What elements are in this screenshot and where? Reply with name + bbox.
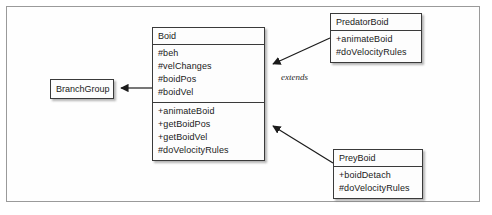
class-attribute: #beh xyxy=(158,47,259,60)
class-box-boid[interactable]: Boid #beh #velChanges #boidPos #boidVel … xyxy=(152,27,265,161)
class-box-preyboid[interactable]: PreyBoid +boidDetach #doVelocityRules xyxy=(333,149,423,199)
class-operation: +boidDetach xyxy=(339,169,417,182)
class-name-preyboid: PreyBoid xyxy=(334,150,422,167)
class-attributes-boid: #beh #velChanges #boidPos #boidVel xyxy=(153,45,264,102)
class-operation: +getBoidPos xyxy=(158,118,259,131)
class-attribute: #boidPos xyxy=(158,73,259,86)
class-attribute: #boidVel xyxy=(158,86,259,99)
class-operations-preyboid: +boidDetach #doVelocityRules xyxy=(334,167,422,198)
class-name-boid: Boid xyxy=(153,28,264,45)
class-box-predatorboid[interactable]: PredatorBoid +animateBoid #doVelocityRul… xyxy=(330,13,422,63)
class-operation: #doVelocityRules xyxy=(158,144,259,157)
relationship-label-extends: extends xyxy=(281,72,308,82)
class-operations-predatorboid: +animateBoid #doVelocityRules xyxy=(331,31,421,62)
class-attribute: #velChanges xyxy=(158,60,259,73)
class-operation: +getBoidVel xyxy=(158,131,259,144)
class-name-predatorboid: PredatorBoid xyxy=(331,14,421,31)
class-operation: +animateBoid xyxy=(336,33,416,46)
class-box-branchgroup[interactable]: BranchGroup xyxy=(50,79,114,99)
class-operation: +animateBoid xyxy=(158,105,259,118)
class-operations-boid: +animateBoid +getBoidPos +getBoidVel #do… xyxy=(153,102,264,160)
diagram-canvas: Boid #beh #velChanges #boidPos #boidVel … xyxy=(0,0,492,215)
class-operation: #doVelocityRules xyxy=(336,46,416,59)
class-operation: #doVelocityRules xyxy=(339,182,417,195)
